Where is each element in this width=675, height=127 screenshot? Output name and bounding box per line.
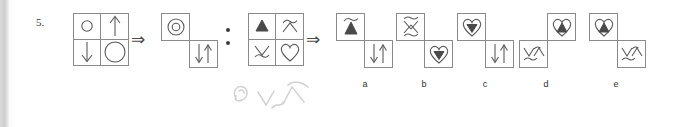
- large-circle-icon: [101, 40, 128, 66]
- result1-box-top-left: [161, 13, 190, 41]
- option-e-box-top-left[interactable]: [589, 13, 618, 41]
- option-label-c: c: [475, 79, 495, 89]
- matrix1-cell-bottom-right: [101, 40, 128, 66]
- option-label-e: e: [606, 79, 626, 89]
- question-number: 5.: [36, 16, 44, 28]
- heart-with-down-triangle-icon: [425, 41, 452, 67]
- option-c-box-bottom-right[interactable]: [485, 40, 514, 68]
- heart-with-up-triangle-icon: [590, 14, 617, 40]
- up-arrow-icon: [101, 14, 128, 39]
- option-a-box-bottom-right[interactable]: [364, 40, 393, 68]
- option-c-box-top-left[interactable]: [457, 13, 486, 41]
- arch-over-valley-curves-icon: [397, 14, 424, 40]
- small-circle-icon: [74, 14, 100, 39]
- analogy-dot-lower: [226, 41, 230, 45]
- option-label-d: d: [536, 79, 556, 89]
- matrix1-cell-top-right: [101, 14, 128, 40]
- implies-arrow-2: ⇒: [306, 31, 320, 48]
- down-up-arrows-icon: [486, 41, 513, 67]
- heart-with-down-triangle-icon: [458, 14, 485, 40]
- matrix2-cell-top-right: [276, 14, 303, 40]
- result1-box-bottom-right: [189, 40, 218, 68]
- down-up-arrows-icon: [365, 41, 392, 67]
- option-label-a: a: [355, 79, 375, 89]
- arch-over-filled-triangle-icon: [337, 14, 364, 40]
- option-b-box-top-left[interactable]: [396, 13, 425, 41]
- source-matrix-1: [73, 13, 129, 66]
- matrix1-cell-bottom-left: [74, 40, 101, 66]
- option-b-box-bottom-right[interactable]: [424, 40, 453, 68]
- matrix2-cell-bottom-left: [249, 40, 276, 66]
- heart-outline-icon: [276, 40, 303, 66]
- scan-edge-light: [9, 0, 13, 127]
- matrix2-cell-bottom-right: [276, 40, 303, 66]
- option-e-box-bottom-right[interactable]: [617, 40, 646, 68]
- valley-arch-curves-icon: [520, 41, 547, 67]
- valley-arch-curves-icon: [618, 41, 645, 67]
- scanned-page: 5.: [0, 0, 675, 127]
- option-a-box-top-left[interactable]: [336, 13, 365, 41]
- matrix1-cell-top-left: [74, 14, 101, 40]
- down-up-arrows-icon: [190, 41, 217, 67]
- scan-edge-shadow: [0, 0, 9, 127]
- filled-triangle-up-icon: [249, 14, 275, 39]
- heart-with-up-triangle-icon: [548, 14, 575, 40]
- handwritten-annotation: [228, 78, 323, 120]
- option-label-b: b: [414, 79, 434, 89]
- option-d-box-bottom-left[interactable]: [519, 40, 548, 68]
- down-arrow-icon: [74, 40, 100, 66]
- analogy-separator-dots: [226, 28, 230, 45]
- arch-curve-icon: [276, 14, 303, 39]
- valley-curve-icon: [249, 40, 275, 66]
- implies-arrow-1: ⇒: [131, 31, 145, 48]
- source-matrix-2: [248, 13, 304, 66]
- analogy-dot-upper: [226, 28, 230, 32]
- option-d-box-top-right[interactable]: [547, 13, 576, 41]
- concentric-circles-icon: [162, 14, 189, 40]
- matrix2-cell-top-left: [249, 14, 276, 40]
